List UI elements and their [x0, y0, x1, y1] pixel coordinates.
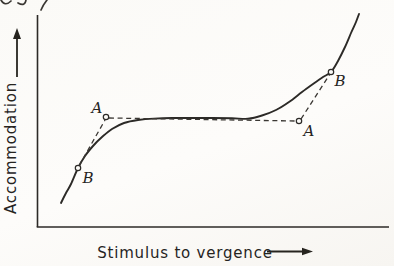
accommodation-vergence-chart: Accommodation Stimulus to vergence ABAB — [0, 0, 394, 266]
point-marker-B — [75, 165, 80, 170]
point-marker-B — [328, 69, 333, 74]
point-label-A: A — [302, 122, 315, 140]
marker-layer: ABAB — [75, 69, 345, 187]
curve-layer — [61, 14, 359, 203]
y-axis-direction-arrow — [13, 28, 21, 77]
accommodation-response-curve — [61, 14, 359, 203]
scanned-figure-page: Accommodation Stimulus to vergence ABAB — [0, 0, 394, 266]
x-axis-direction-arrow — [267, 248, 313, 255]
point-marker-A — [296, 118, 301, 123]
tangent-chord-right — [301, 74, 330, 119]
x-axis-label: Stimulus to vergence — [97, 244, 273, 262]
point-label-A: A — [90, 99, 103, 117]
y-axis-label: Accommodation — [2, 82, 20, 214]
point-marker-A — [103, 114, 108, 119]
point-label-B: B — [81, 169, 93, 187]
cropped-text-fragment — [1, 0, 47, 10]
point-label-B: B — [333, 72, 345, 90]
